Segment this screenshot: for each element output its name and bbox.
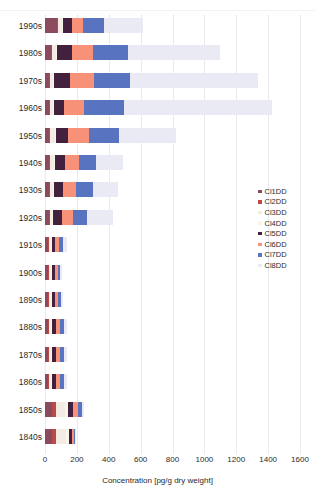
y-axis-tick-label: 1880s	[2, 322, 42, 332]
bar-segment	[56, 402, 65, 417]
x-axis-tick-label: 1600	[291, 455, 309, 464]
y-axis-tick-label: 1840s	[2, 432, 42, 442]
bar-segment	[56, 429, 66, 444]
y-axis-tick-label: 1990s	[2, 21, 42, 31]
x-axis-tick-label: 0	[43, 455, 47, 464]
legend-swatch-icon	[258, 190, 262, 194]
bar-row	[45, 347, 67, 362]
bar-segment	[45, 18, 57, 33]
y-axis-tick-label: 1970s	[2, 76, 42, 86]
legend-item[interactable]: Cl4DD	[258, 218, 313, 229]
bar-segment	[54, 100, 64, 115]
bar-row	[45, 265, 62, 280]
bar-segment	[79, 155, 96, 170]
legend-label: Cl3DD	[265, 208, 287, 217]
y-axis-tick-label: 1850s	[2, 405, 42, 415]
legend-label: Cl5DD	[265, 229, 287, 238]
legend-label: Cl8DD	[265, 261, 287, 270]
bar-segment	[64, 347, 67, 362]
legend-label: Cl2DD	[265, 197, 287, 206]
legend-swatch-icon	[258, 211, 262, 215]
chart-container: 1990s1980s1970s1960s1950s1940s1930s1920s…	[0, 0, 315, 495]
bar-row	[45, 18, 143, 33]
bar-segment	[61, 292, 63, 307]
y-axis-tick-label: 1870s	[2, 350, 42, 360]
y-axis-tick-label: 1930s	[2, 185, 42, 195]
bar-segment	[130, 73, 258, 88]
legend-swatch-icon	[258, 221, 262, 225]
bar-segment	[84, 100, 124, 115]
bar-segment	[124, 100, 272, 115]
legend-swatch-icon	[258, 232, 262, 236]
legend-item[interactable]: Cl6DD	[258, 239, 313, 250]
bar-segment	[45, 402, 52, 417]
bar-segment	[87, 210, 113, 225]
y-axis-tick-label: 1980s	[2, 48, 42, 58]
legend-label: Cl4DD	[265, 219, 287, 228]
legend-swatch-icon	[258, 253, 262, 257]
x-axis-tick-label: 1000	[195, 455, 213, 464]
bar-row	[45, 429, 76, 444]
legend-item[interactable]: Cl8DD	[258, 260, 313, 271]
bar-segment	[70, 73, 94, 88]
bar-segment	[56, 128, 68, 143]
y-axis-tick-label: 1940s	[2, 158, 42, 168]
bar-row	[45, 73, 258, 88]
legend-label: Cl6DD	[265, 240, 287, 249]
y-axis-tick-label: 1860s	[2, 377, 42, 387]
chart-top-border	[0, 10, 315, 11]
y-axis-tick-label: 1890s	[2, 295, 42, 305]
bar-segment	[60, 265, 62, 280]
bar-row	[45, 402, 84, 417]
bar-segment	[83, 18, 104, 33]
bar-segment	[94, 73, 130, 88]
bar-row	[45, 237, 67, 252]
x-axis-tick-label: 1200	[227, 455, 245, 464]
bar-segment	[73, 210, 87, 225]
bar-segment	[54, 73, 70, 88]
x-axis-tick-label: 800	[166, 455, 179, 464]
legend-swatch-icon	[258, 243, 262, 247]
bar-segment	[104, 18, 143, 33]
bar-row	[45, 292, 63, 307]
legend-item[interactable]: Cl1DD	[258, 186, 313, 197]
legend-label: Cl7DD	[265, 250, 287, 259]
y-axis-tick-label: 1900s	[2, 268, 42, 278]
bar-segment	[53, 210, 62, 225]
bar-segment	[64, 374, 67, 389]
bar-row	[45, 182, 118, 197]
x-axis-tick-label: 600	[134, 455, 147, 464]
legend-item[interactable]: Cl5DD	[258, 228, 313, 239]
y-axis-tick-label: 1960s	[2, 103, 42, 113]
bar-row	[45, 128, 176, 143]
bar-segment	[63, 182, 76, 197]
y-axis-tick-label: 1910s	[2, 240, 42, 250]
x-axis-tick-label: 200	[70, 455, 83, 464]
legend-item[interactable]: Cl3DD	[258, 207, 313, 218]
bar-segment	[64, 100, 84, 115]
x-axis: 02004006008001000120014001600	[45, 455, 300, 469]
bar-segment	[89, 128, 119, 143]
bar-segment	[54, 182, 63, 197]
bar-row	[45, 319, 67, 334]
bar-segment	[57, 45, 72, 60]
bar-row	[45, 100, 272, 115]
bar-segment	[119, 128, 176, 143]
legend-item[interactable]: Cl2DD	[258, 197, 313, 208]
bar-segment	[63, 237, 67, 252]
bar-segment	[75, 429, 76, 444]
x-axis-tick-label: 400	[102, 455, 115, 464]
bar-segment	[93, 45, 128, 60]
x-axis-tick-label: 1400	[259, 455, 277, 464]
y-axis-tick-label: 1950s	[2, 131, 42, 141]
bar-segment	[93, 182, 118, 197]
bar-row	[45, 45, 220, 60]
legend-item[interactable]: Cl7DD	[258, 250, 313, 261]
bar-segment	[65, 155, 79, 170]
bar-segment	[45, 429, 52, 444]
bar-row	[45, 155, 123, 170]
bar-segment	[82, 402, 84, 417]
bar-row	[45, 374, 67, 389]
bar-segment	[63, 18, 72, 33]
bar-segment	[68, 128, 89, 143]
